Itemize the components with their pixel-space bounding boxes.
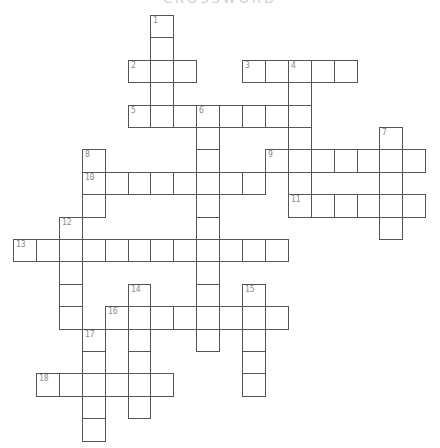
grid-cell[interactable]: [379, 217, 403, 240]
grid-cell[interactable]: [128, 396, 151, 419]
grid-cell[interactable]: 9: [265, 149, 289, 173]
grid-cell[interactable]: [150, 172, 174, 195]
grid-cell[interactable]: [334, 149, 358, 173]
grid-cell[interactable]: [265, 306, 289, 330]
grid-cell[interactable]: [105, 373, 129, 397]
clue-number: 9: [268, 150, 273, 160]
grid-cell[interactable]: [196, 172, 220, 195]
grid-cell[interactable]: [128, 373, 151, 397]
grid-cell[interactable]: [219, 105, 243, 128]
grid-cell[interactable]: [59, 239, 83, 262]
grid-cell[interactable]: [196, 261, 220, 285]
grid-cell[interactable]: [379, 149, 403, 173]
grid-cell[interactable]: 3: [242, 60, 266, 83]
grid-cell[interactable]: [242, 351, 266, 374]
grid-cell[interactable]: [242, 105, 266, 128]
grid-cell[interactable]: [288, 82, 312, 106]
grid-cell[interactable]: [173, 172, 197, 195]
grid-cell[interactable]: 16: [105, 306, 129, 330]
grid-cell[interactable]: [82, 418, 106, 442]
grid-cell[interactable]: 4: [288, 60, 312, 83]
grid-cell[interactable]: 6: [196, 105, 220, 128]
grid-cell[interactable]: [288, 105, 312, 128]
grid-cell[interactable]: 13: [13, 239, 37, 262]
grid-cell[interactable]: [82, 239, 106, 262]
grid-cell[interactable]: 8: [82, 149, 106, 173]
clue-number: 2: [131, 61, 136, 71]
grid-cell[interactable]: [265, 105, 289, 128]
grid-cell[interactable]: [82, 194, 106, 218]
grid-cell[interactable]: [379, 172, 403, 195]
grid-cell[interactable]: [128, 306, 151, 330]
grid-cell[interactable]: 11: [288, 194, 312, 218]
grid-cell[interactable]: [242, 239, 266, 262]
grid-cell[interactable]: [219, 306, 243, 330]
grid-cell[interactable]: 10: [82, 172, 106, 195]
grid-cell[interactable]: [150, 373, 174, 397]
grid-cell[interactable]: 1: [150, 15, 174, 38]
grid-cell[interactable]: 2: [128, 60, 151, 83]
grid-cell[interactable]: 12: [59, 217, 83, 240]
grid-cell[interactable]: [150, 105, 174, 128]
grid-cell[interactable]: [196, 194, 220, 218]
grid-cell[interactable]: [242, 172, 266, 195]
grid-cell[interactable]: [150, 60, 174, 83]
grid-cell[interactable]: [357, 149, 380, 173]
grid-cell[interactable]: [82, 373, 106, 397]
grid-cell[interactable]: [311, 194, 335, 218]
grid-cell[interactable]: 14: [128, 284, 151, 307]
grid-cell[interactable]: [242, 329, 266, 352]
grid-cell[interactable]: [59, 306, 83, 330]
grid-cell[interactable]: [196, 239, 220, 262]
grid-cell[interactable]: 7: [379, 127, 403, 150]
grid-cell[interactable]: [334, 194, 358, 218]
grid-cell[interactable]: [242, 306, 266, 330]
grid-cell[interactable]: [196, 149, 220, 173]
grid-cell[interactable]: [402, 194, 426, 218]
grid-cell[interactable]: [288, 172, 312, 195]
grid-cell[interactable]: [173, 105, 197, 128]
grid-cell[interactable]: [196, 329, 220, 352]
grid-cell[interactable]: [59, 284, 83, 307]
grid-cell[interactable]: [173, 60, 197, 83]
grid-cell[interactable]: [288, 127, 312, 150]
grid-cell[interactable]: [242, 373, 266, 397]
grid-cell[interactable]: [311, 60, 335, 83]
grid-cell[interactable]: [150, 82, 174, 106]
grid-cell[interactable]: [311, 149, 335, 173]
grid-cell[interactable]: [173, 239, 197, 262]
grid-cell[interactable]: [82, 396, 106, 419]
grid-cell[interactable]: [219, 172, 243, 195]
grid-cell[interactable]: [150, 37, 174, 61]
grid-cell[interactable]: [379, 194, 403, 218]
grid-cell[interactable]: [357, 194, 380, 218]
grid-cell[interactable]: [128, 351, 151, 374]
grid-cell[interactable]: [36, 239, 60, 262]
grid-cell[interactable]: 5: [128, 105, 151, 128]
grid-cell[interactable]: [402, 149, 426, 173]
grid-cell[interactable]: [59, 261, 83, 285]
grid-cell[interactable]: [128, 172, 151, 195]
grid-cell[interactable]: [288, 149, 312, 173]
grid-cell[interactable]: [265, 239, 289, 262]
grid-cell[interactable]: [128, 329, 151, 352]
grid-cell[interactable]: [196, 127, 220, 150]
grid-cell[interactable]: [196, 217, 220, 240]
grid-cell[interactable]: [150, 306, 174, 330]
grid-cell[interactable]: 15: [242, 284, 266, 307]
grid-cell[interactable]: [196, 306, 220, 330]
clue-number: 4: [291, 61, 296, 71]
grid-cell[interactable]: 17: [82, 329, 106, 352]
grid-cell[interactable]: [265, 60, 289, 83]
grid-cell[interactable]: [105, 239, 129, 262]
grid-cell[interactable]: [59, 373, 83, 397]
grid-cell[interactable]: [128, 239, 151, 262]
grid-cell[interactable]: [196, 284, 220, 307]
grid-cell[interactable]: [105, 172, 129, 195]
grid-cell[interactable]: 18: [36, 373, 60, 397]
grid-cell[interactable]: [173, 306, 197, 330]
grid-cell[interactable]: [82, 351, 106, 374]
grid-cell[interactable]: [219, 239, 243, 262]
grid-cell[interactable]: [150, 239, 174, 262]
grid-cell[interactable]: [334, 60, 358, 83]
